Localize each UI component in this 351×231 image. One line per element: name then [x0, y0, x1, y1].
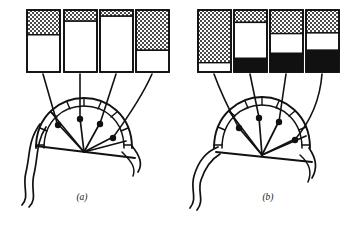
bar-a-1 — [27, 10, 60, 72]
fan-marker-dot — [77, 116, 83, 122]
bar-b-1 — [198, 10, 231, 72]
fan-marker-dot — [256, 115, 262, 121]
fan-marker-dot — [97, 121, 103, 127]
fan-marker-dot — [276, 119, 282, 125]
fan-marker-dot — [236, 125, 242, 131]
bar-b-4 — [306, 10, 339, 72]
fan-marker-dot — [55, 122, 61, 128]
fan-marker-dot — [292, 137, 298, 143]
bar-a-3 — [100, 10, 133, 72]
bar-segment-white — [27, 35, 60, 72]
bar-segment-white — [100, 16, 133, 72]
bar-segment-stipple — [27, 10, 60, 35]
bar-segment-black — [234, 58, 267, 72]
bar-segment-white — [64, 21, 97, 72]
bar-segment-black — [270, 53, 303, 72]
figure-canvas: (a) — [0, 0, 351, 231]
panel-caption-a: (a) — [76, 192, 87, 203]
bar-segment-stipple — [100, 10, 133, 16]
panel-caption-b: (b) — [262, 192, 273, 203]
bar-b-3 — [270, 10, 303, 72]
bar-segment-black — [306, 50, 339, 72]
bar-segment-stipple — [198, 10, 231, 63]
bar-a-2 — [64, 10, 97, 72]
fan-marker-dot — [110, 135, 116, 141]
bar-segment-stipple — [136, 10, 169, 50]
bar-b-2 — [234, 10, 267, 72]
bar-segment-white — [270, 34, 303, 54]
bar-a-4 — [136, 10, 169, 72]
bar-segment-white — [234, 22, 267, 58]
bar-segment-stipple — [64, 10, 97, 21]
figure-container: (a) — [0, 0, 351, 231]
bar-segment-white — [198, 63, 231, 72]
bar-segment-white — [306, 33, 339, 50]
bar-segment-stipple — [234, 10, 267, 22]
bar-segment-white — [136, 50, 169, 72]
bar-segment-stipple — [306, 10, 339, 33]
bar-segment-stipple — [270, 10, 303, 34]
